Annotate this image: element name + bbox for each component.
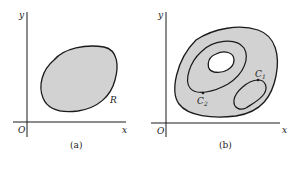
panel-a: y O x R (a): [13, 10, 127, 150]
y-axis-label: y: [157, 10, 164, 20]
point-c2: [202, 92, 205, 95]
caption-b: (b): [219, 140, 232, 150]
region-r: [41, 46, 117, 112]
x-axis-label: x: [282, 125, 287, 135]
point-c1: [257, 79, 260, 82]
x-axis-label: x: [122, 125, 127, 135]
curve-c1-subscript: 1: [262, 73, 266, 80]
region-label: R: [109, 95, 117, 105]
origin-label: O: [18, 125, 26, 135]
y-axis-label: y: [18, 10, 25, 20]
origin-label: O: [157, 126, 165, 136]
caption-a: (a): [70, 140, 82, 150]
figure: y O x R (a) y O x C1 C2 (b): [0, 0, 296, 169]
panel-b: y O x C1 C2 (b): [151, 10, 287, 150]
curve-c2-subscript: 2: [203, 100, 208, 107]
